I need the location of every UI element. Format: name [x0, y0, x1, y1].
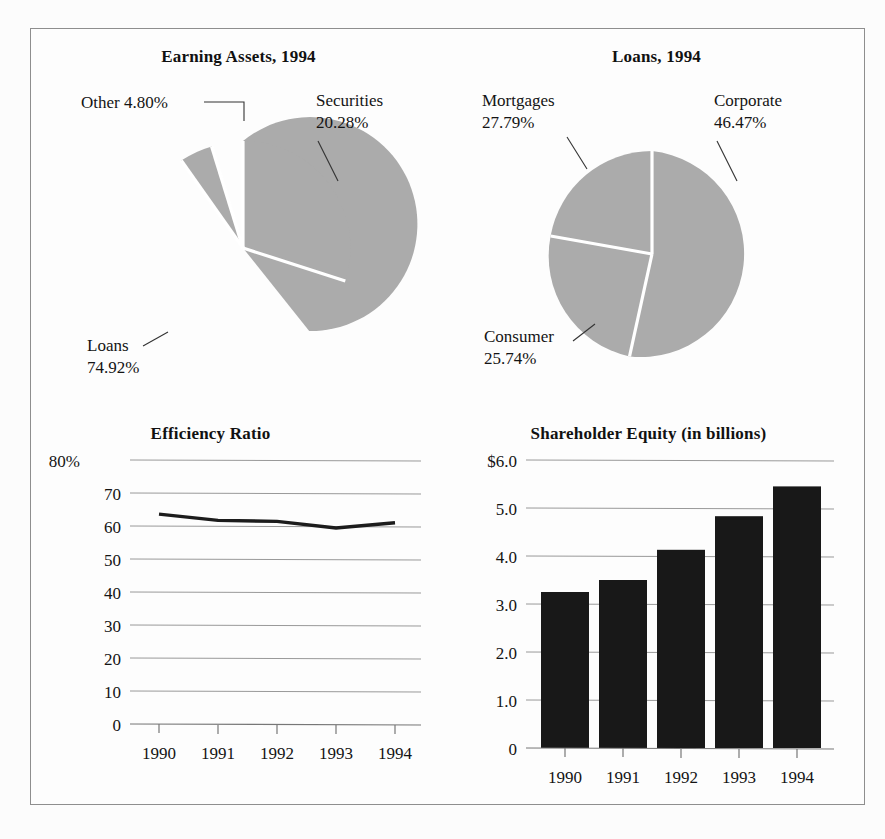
chart-title-earning-assets: Earning Assets, 1994: [31, 47, 446, 67]
bar-1993[interactable]: [715, 516, 763, 748]
bar-1994[interactable]: [773, 486, 821, 748]
pie-label-loans-value: 74.92%: [87, 358, 139, 377]
pie-label-consumer-name: Consumer: [484, 327, 554, 346]
efficiency-ytick-50: 50: [104, 551, 121, 570]
equity-ytick-3: 3.0: [496, 596, 517, 615]
loans-pie-svg: Mortgages 27.79% Corporate 46.47% Consum…: [449, 29, 864, 414]
chart-title-efficiency-ratio: Efficiency Ratio: [3, 424, 418, 444]
pie-label-mortgages-value: 27.79%: [482, 113, 534, 132]
efficiency-ytick-70: 70: [104, 485, 121, 504]
pie-label-mortgages-name: Mortgages: [482, 91, 555, 110]
efficiency-ytick-30: 30: [104, 617, 121, 636]
equity-xtick-1991: 1991: [606, 768, 640, 787]
efficiency-ytick-0: 0: [113, 716, 122, 735]
chart-title-shareholder-equity: Shareholder Equity (in billions): [441, 424, 856, 444]
chart-earning-assets: Earning Assets, 1994 Other 4.80% Securit…: [31, 29, 446, 414]
efficiency-gridlines: [130, 460, 421, 725]
efficiency-ytick-20: 20: [104, 650, 121, 669]
efficiency-ytick-40: 40: [104, 584, 121, 603]
efficiency-xtick-1994: 1994: [378, 744, 413, 763]
efficiency-ratio-svg: 80% 70 60 50 40 30 20 10 0 1990 1991 199…: [31, 414, 446, 804]
bar-1992[interactable]: [657, 550, 705, 748]
efficiency-ytick-60: 60: [104, 518, 121, 537]
bar-1990[interactable]: [541, 592, 589, 748]
chart-efficiency-ratio: Efficiency Ratio 80%: [31, 414, 446, 804]
equity-xtick-1992: 1992: [664, 768, 698, 787]
equity-baseline: [526, 748, 834, 749]
equity-ytick-1: 1.0: [496, 692, 517, 711]
efficiency-xtick-1992: 1992: [260, 744, 294, 763]
equity-xtick-1990: 1990: [548, 768, 582, 787]
equity-xtick-1993: 1993: [722, 768, 756, 787]
earning-assets-pie-svg: Other 4.80% Securities 20.28% Loans 74.9…: [31, 29, 446, 414]
pie-label-loans-name: Loans: [87, 336, 129, 355]
efficiency-ytick-10: 10: [104, 683, 121, 702]
pie-label-other: Other 4.80%: [81, 93, 168, 112]
chart-shareholder-equity: Shareholder Equity (in billions): [449, 414, 864, 804]
leader-line-loans: [143, 332, 168, 346]
bar-1991[interactable]: [599, 580, 647, 748]
pie-label-consumer-value: 25.74%: [484, 349, 536, 368]
chart-title-loans: Loans, 1994: [449, 47, 864, 67]
efficiency-xtick-1991: 1991: [201, 744, 235, 763]
shareholder-equity-svg: $6.0 5.0 4.0 3.0 2.0 1.0 0 1990 1991 199…: [449, 414, 864, 804]
pie-label-corporate-name: Corporate: [714, 91, 782, 110]
chart-loans: Loans, 1994 Mortgages 27.79% Corporate 4…: [449, 29, 864, 414]
equity-ytick-6: $6.0: [487, 452, 517, 471]
efficiency-xtick-1990: 1990: [142, 744, 176, 763]
pie-label-securities-name: Securities: [316, 91, 383, 110]
pie-label-securities-value: 20.28%: [316, 113, 368, 132]
equity-ytick-5: 5.0: [496, 500, 517, 519]
leader-line-mortgages: [567, 137, 587, 169]
leader-line-other: [204, 102, 244, 121]
equity-ytick-0: 0: [509, 740, 518, 759]
equity-ytick-4: 4.0: [496, 548, 517, 567]
equity-x-ticks: [565, 748, 797, 758]
equity-ytick-2: 2.0: [496, 644, 517, 663]
report-frame: Earning Assets, 1994 Other 4.80% Securit…: [30, 28, 865, 805]
efficiency-x-ticks: [159, 724, 395, 734]
leader-line-corporate: [717, 141, 737, 181]
equity-xtick-1994: 1994: [780, 768, 815, 787]
pie-label-corporate-value: 46.47%: [714, 113, 766, 132]
efficiency-ytick-80: 80%: [49, 452, 80, 471]
efficiency-xtick-1993: 1993: [319, 744, 353, 763]
